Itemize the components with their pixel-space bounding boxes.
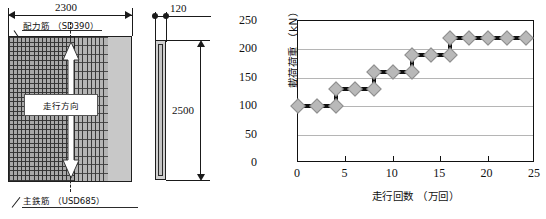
callout-leader-bottom bbox=[12, 197, 21, 208]
dim-dot-thickness-left bbox=[152, 13, 158, 19]
dim-arrow-right bbox=[125, 11, 132, 19]
chart-x-tick bbox=[393, 156, 394, 161]
chart-x-tick-label: 20 bbox=[481, 166, 493, 181]
slab-side-view bbox=[155, 40, 166, 180]
technical-drawing: 2300 配力筋 （SD390） 走行方向 主鉄筋 （USD685） bbox=[0, 0, 250, 219]
chart-data-point bbox=[461, 30, 477, 46]
chart-data-point bbox=[480, 30, 496, 46]
chart-data-point bbox=[518, 30, 534, 46]
dim-line-length bbox=[200, 44, 201, 176]
dim-arrow-left bbox=[8, 11, 15, 19]
dim-label-length: 2500 bbox=[172, 104, 194, 116]
travel-direction-box: 走行方向 bbox=[24, 94, 98, 116]
figure-root: 2300 配力筋 （SD390） 走行方向 主鉄筋 （USD685） bbox=[0, 0, 546, 219]
chart-data-point bbox=[347, 81, 363, 97]
dim-ext-right bbox=[132, 8, 133, 36]
load-cycle-chart: 載荷荷重 （kN） 走行回数 （万回） 050100150200250 0510… bbox=[250, 0, 546, 219]
dim-arrow-length-bottom bbox=[197, 174, 205, 181]
chart-data-point bbox=[442, 30, 458, 46]
chart-x-tick bbox=[488, 156, 489, 161]
callout-label-bottom: 主鉄筋 （USD685） bbox=[23, 194, 105, 206]
chart-data-point bbox=[328, 81, 344, 97]
chart-gridline bbox=[298, 135, 533, 136]
chart-x-tick-label: 25 bbox=[528, 166, 540, 181]
chart-data-point bbox=[366, 81, 382, 97]
dim-label-width: 2300 bbox=[55, 1, 77, 13]
chart-x-tick-label: 0 bbox=[294, 166, 300, 181]
chart-x-tick-label: 15 bbox=[433, 166, 445, 181]
travel-direction-label: 走行方向 bbox=[43, 99, 79, 111]
dim-ext-left bbox=[8, 8, 9, 36]
chart-data-point bbox=[290, 98, 306, 114]
callout-label-top: 配力筋 （SD390） bbox=[23, 19, 99, 31]
chart-y-tick-label: 0 bbox=[217, 155, 257, 170]
dim-line-width bbox=[8, 15, 132, 16]
chart-y-tick-label: 200 bbox=[217, 41, 257, 56]
chart-x-tick bbox=[440, 156, 441, 161]
slab-side-core bbox=[158, 44, 163, 176]
chart-y-tick-label: 150 bbox=[217, 69, 257, 84]
dim-arrow-length-top bbox=[197, 40, 205, 47]
chart-data-point bbox=[328, 98, 344, 114]
chart-plot-area bbox=[297, 20, 534, 162]
chart-x-tick bbox=[345, 156, 346, 161]
chart-x-tick-label: 10 bbox=[386, 166, 398, 181]
chart-y-tick-label: 100 bbox=[217, 98, 257, 113]
centerline-top bbox=[70, 22, 71, 38]
callout-underline-bottom bbox=[22, 207, 138, 208]
chart-gridline bbox=[298, 78, 533, 79]
chart-data-point bbox=[499, 30, 515, 46]
dim-dot-thickness-right bbox=[163, 13, 169, 19]
chart-x-tick-label: 5 bbox=[341, 166, 347, 181]
chart-data-point bbox=[309, 98, 325, 114]
chart-x-axis-label: 走行回数 （万回） bbox=[297, 188, 534, 203]
chart-y-tick-label: 50 bbox=[217, 126, 257, 141]
dim-label-thickness: 120 bbox=[170, 2, 187, 14]
centerline-bottom bbox=[70, 176, 71, 192]
chart-y-tick-label: 250 bbox=[217, 13, 257, 28]
